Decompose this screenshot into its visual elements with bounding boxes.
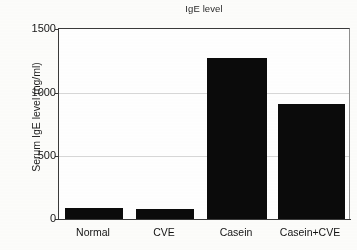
x-axis-line xyxy=(58,219,351,220)
xtick-label-normal: Normal xyxy=(64,226,122,238)
xtick-label-casein: Casein xyxy=(206,226,266,238)
bar-casein xyxy=(207,58,267,219)
y-axis-title: Serum IgE level (ng/ml) xyxy=(30,17,42,217)
bar-cve xyxy=(136,209,194,219)
plot-area xyxy=(58,28,350,219)
chart-figure: IgE level Serum IgE level (ng/ml) 1500 1… xyxy=(0,0,357,250)
xtick-label-casein-cve: Casein+CVE xyxy=(274,226,346,238)
ytick-label-1500: 1500 xyxy=(0,22,56,34)
ytick-label-500: 500 xyxy=(0,149,56,161)
gridline-1000 xyxy=(59,93,349,94)
bar-normal xyxy=(65,208,123,219)
bar-casein-cve xyxy=(278,104,345,219)
xtick-label-cve: CVE xyxy=(135,226,193,238)
ytick-label-0: 0 xyxy=(0,212,56,224)
ytick-label-1000: 1000 xyxy=(0,86,56,98)
chart-title: IgE level xyxy=(58,3,350,14)
